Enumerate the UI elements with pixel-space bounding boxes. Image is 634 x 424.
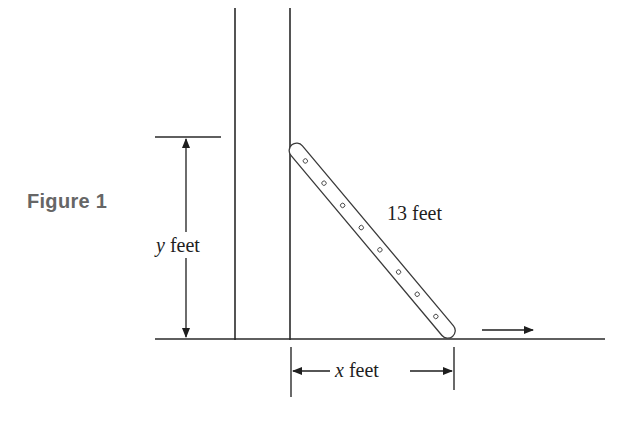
ladder-figure: Figure 1 y feet 13 feet x feet: [0, 0, 634, 424]
y-unit: feet: [165, 234, 200, 256]
x-dimension-label: x feet: [332, 360, 382, 380]
wall: [235, 8, 290, 340]
figure-caption: Figure 1: [27, 190, 107, 213]
ladder-body: [286, 140, 458, 341]
x-variable: x: [335, 359, 344, 381]
ladder-length-label: 13 feet: [387, 203, 442, 223]
y-variable: y: [156, 234, 165, 256]
x-unit: feet: [344, 359, 379, 381]
ladder: [286, 140, 458, 341]
y-dimension-label: y feet: [155, 233, 201, 257]
